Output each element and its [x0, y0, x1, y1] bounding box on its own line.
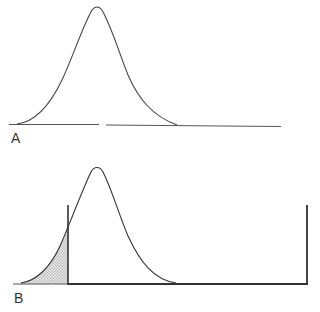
panel-b: B [13, 168, 308, 307]
panel-b-normal-curve [21, 168, 176, 284]
diagram-canvas: A B [0, 0, 320, 312]
panel-a-baseline [9, 125, 281, 127]
panel-b-label: B [14, 290, 23, 306]
panel-a-label: A [11, 130, 21, 146]
panel-a-normal-curve [17, 7, 177, 125]
panel-b-shaded-tail [21, 224, 68, 284]
panel-a: A [9, 7, 281, 146]
